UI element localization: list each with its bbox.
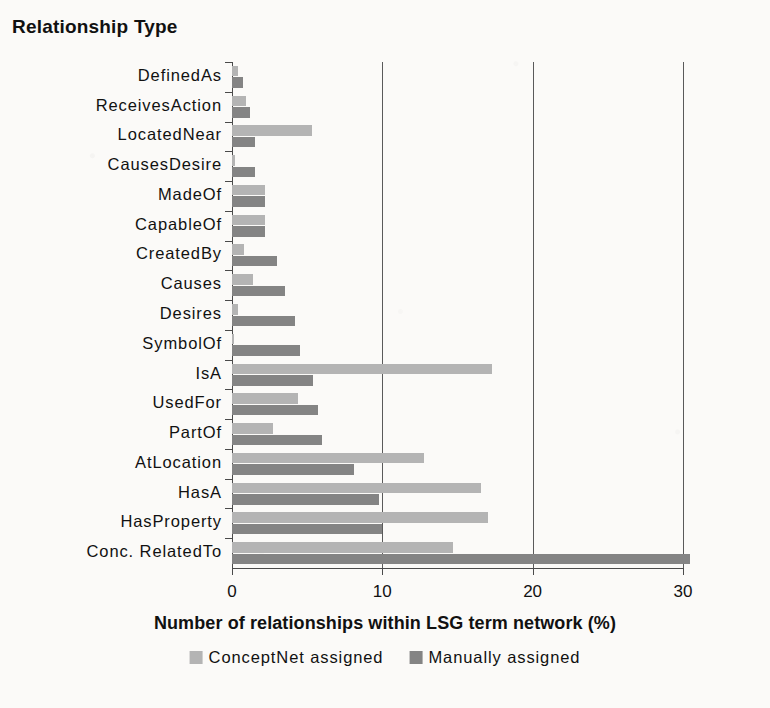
category-label: CapableOf xyxy=(135,215,222,234)
x-axis-line xyxy=(232,568,684,569)
category-label: Desires xyxy=(160,304,222,323)
legend-swatch-icon xyxy=(190,651,203,664)
category-label: CreatedBy xyxy=(136,244,222,263)
x-tick-20 xyxy=(533,568,534,575)
y-tick xyxy=(225,330,232,331)
bar xyxy=(232,66,238,77)
y-tick xyxy=(225,62,232,63)
category-label: MadeOf xyxy=(158,185,222,204)
category-label: ReceivesAction xyxy=(96,96,222,115)
bar xyxy=(232,334,234,345)
bar xyxy=(232,554,690,565)
y-tick xyxy=(225,92,232,93)
bar xyxy=(232,196,265,207)
bar xyxy=(232,286,285,297)
bar xyxy=(232,512,488,523)
x-tick-label: 10 xyxy=(373,582,392,602)
category-label: HasProperty xyxy=(120,512,222,531)
x-axis-title: Number of relationships within LSG term … xyxy=(154,613,616,634)
category-label: LocatedNear xyxy=(118,125,222,144)
y-tick xyxy=(225,419,232,420)
legend-swatch-icon xyxy=(409,651,422,664)
gridline-30 xyxy=(683,62,684,568)
bar xyxy=(232,125,312,136)
x-tick-label: 0 xyxy=(227,582,236,602)
bar xyxy=(232,215,265,226)
y-tick xyxy=(225,360,232,361)
bar xyxy=(232,167,255,178)
category-label: HasA xyxy=(178,483,222,502)
bar xyxy=(232,96,246,107)
bar xyxy=(232,375,313,386)
x-tick-label: 30 xyxy=(673,582,692,602)
category-label: DefinedAs xyxy=(138,66,222,85)
bar xyxy=(232,77,243,88)
bar xyxy=(232,393,298,404)
y-tick xyxy=(225,241,232,242)
category-label: SymbolOf xyxy=(142,334,222,353)
category-label: PartOf xyxy=(169,423,222,442)
gridline-20 xyxy=(533,62,534,568)
legend-label: Manually assigned xyxy=(428,648,580,667)
category-label: Conc. RelatedTo xyxy=(87,542,223,561)
x-tick-30 xyxy=(683,568,684,575)
y-tick xyxy=(225,300,232,301)
bar xyxy=(232,542,453,553)
category-label: Causes xyxy=(161,274,222,293)
category-label: AtLocation xyxy=(135,453,222,472)
y-tick xyxy=(225,389,232,390)
bar xyxy=(232,453,424,464)
category-label: UsedFor xyxy=(152,393,222,412)
y-tick xyxy=(225,181,232,182)
y-tick xyxy=(225,538,232,539)
y-tick xyxy=(225,151,232,152)
chart-legend: ConceptNet assignedManually assigned xyxy=(190,648,581,667)
bar xyxy=(232,137,255,148)
bar xyxy=(232,226,265,237)
category-label-column: DefinedAsReceivesActionLocatedNearCauses… xyxy=(0,62,226,568)
x-tick-0 xyxy=(232,568,233,575)
bar xyxy=(232,524,382,535)
bar xyxy=(232,107,250,118)
bar xyxy=(232,155,235,166)
y-tick xyxy=(225,211,232,212)
bar xyxy=(232,405,318,416)
bar xyxy=(232,256,277,267)
bar xyxy=(232,483,481,494)
legend-entry: ConceptNet assigned xyxy=(190,648,384,667)
x-tick-label: 20 xyxy=(523,582,542,602)
bar xyxy=(232,185,265,196)
chart-figure: Relationship Type DefinedAsReceivesActio… xyxy=(0,0,770,708)
category-label: CausesDesire xyxy=(108,155,222,174)
bar xyxy=(232,274,253,285)
bar xyxy=(232,244,244,255)
y-axis-title: Relationship Type xyxy=(12,16,178,38)
legend-entry: Manually assigned xyxy=(409,648,580,667)
category-label: IsA xyxy=(195,364,222,383)
y-tick xyxy=(225,449,232,450)
bar xyxy=(232,304,238,315)
plot-area xyxy=(232,62,684,568)
bar xyxy=(232,345,300,356)
bar xyxy=(232,435,322,446)
bar xyxy=(232,464,354,475)
y-tick xyxy=(225,508,232,509)
bar xyxy=(232,364,492,375)
bar xyxy=(232,316,295,327)
y-tick xyxy=(225,479,232,480)
y-tick xyxy=(225,270,232,271)
bar xyxy=(232,494,379,505)
y-tick xyxy=(225,122,232,123)
bar xyxy=(232,423,273,434)
x-tick-10 xyxy=(382,568,383,575)
legend-label: ConceptNet assigned xyxy=(209,648,384,667)
